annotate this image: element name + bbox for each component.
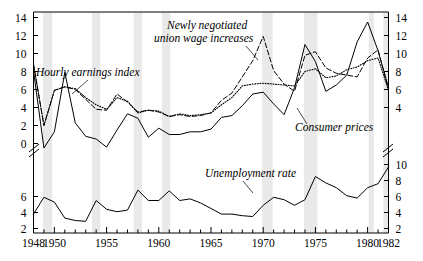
x-axis-tick-label: 1955 bbox=[95, 237, 118, 249]
axis-tick-label: 4 bbox=[396, 207, 402, 219]
axis-tick-label: 10 bbox=[396, 159, 408, 171]
x-axis-tick-label: 1982 bbox=[377, 237, 400, 249]
x-axis-tick-label: 1970 bbox=[252, 237, 275, 249]
axis-tick-label: 6 bbox=[396, 84, 402, 96]
annotation-label-line1: Newly negotiated bbox=[166, 19, 247, 32]
recession-band bbox=[162, 13, 170, 233]
axis-tick-label: 12 bbox=[396, 30, 408, 42]
axis-tick-label: 6 bbox=[396, 191, 402, 203]
x-axis-tick-label: 1965 bbox=[200, 237, 223, 249]
axis-tick-label: 4 bbox=[396, 102, 402, 114]
axis-tick-label: 2 bbox=[396, 223, 402, 235]
x-axis-tick-label: 1975 bbox=[304, 237, 327, 249]
axis-tick-label: 6 bbox=[21, 191, 27, 203]
axis-tick-label: 4 bbox=[21, 207, 27, 219]
axis-tick-label: 12 bbox=[15, 30, 27, 42]
axis-tick-label: 8 bbox=[396, 66, 402, 78]
x-axis-tick-label: 1950 bbox=[43, 237, 66, 249]
axis-tick-label: 8 bbox=[21, 66, 27, 78]
axis-tick-label: 14 bbox=[396, 12, 408, 24]
x-axis-tick-label: 1960 bbox=[147, 237, 170, 249]
axis-tick-label: 14 bbox=[15, 12, 27, 24]
recession-band bbox=[92, 13, 100, 233]
x-axis-tick-label: 1980 bbox=[356, 237, 379, 249]
recession-band bbox=[383, 13, 388, 233]
recession-band bbox=[134, 13, 142, 233]
annotation-label: Unemployment rate bbox=[205, 167, 296, 180]
annotation-label: Consumer prices bbox=[295, 121, 374, 134]
x-axis-tick-label: 1948 bbox=[22, 237, 45, 249]
axis-tick-label: 0 bbox=[21, 138, 27, 150]
axis-tick-label: 6 bbox=[21, 84, 27, 96]
axis-tick-label: 2 bbox=[21, 223, 27, 235]
axis-tick-label: 10 bbox=[396, 48, 408, 60]
axis-tick-label: 4 bbox=[21, 102, 27, 114]
annotation-label: Hourly earnings index bbox=[35, 66, 140, 79]
axis-tick-label: 10 bbox=[15, 48, 27, 60]
inflation-unemployment-chart: 14121086420642 141210864108642 194819501… bbox=[0, 0, 423, 261]
chart-figure: 14121086420642 141210864108642 194819501… bbox=[0, 0, 423, 261]
annotation-label-line2: union wage increases bbox=[154, 32, 254, 45]
axis-tick-label: 8 bbox=[396, 175, 402, 187]
axis-tick-label: 2 bbox=[21, 120, 27, 132]
